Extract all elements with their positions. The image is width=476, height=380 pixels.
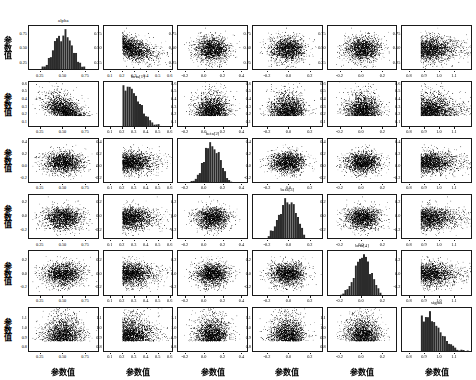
x-tick-mark	[424, 353, 425, 355]
y-axis-label-row-4: 参数值	[1, 194, 12, 239]
y-tick-label: -0.2	[20, 284, 27, 290]
y-ticks-sigma: 0.80.91.01.1	[14, 307, 28, 352]
scatter-plot-area	[104, 195, 174, 239]
x-tick-label: 0.4	[239, 185, 244, 191]
x-tick-mark	[361, 127, 362, 129]
x-tick-label: 0.1	[107, 129, 112, 135]
x-tick-label: 0.0	[358, 129, 363, 135]
x-tick-label: 0.4	[143, 185, 148, 191]
x-tick-label: 0.75	[81, 354, 89, 360]
panel-title-beta1: beta[1]	[103, 73, 174, 80]
x-tick-label: 0.3	[131, 129, 136, 135]
x-tick-label: 0.4	[239, 242, 244, 248]
x-tick-label: 0.6	[167, 354, 172, 360]
x-tick-mark	[204, 240, 205, 242]
panel-title-beta2: beta[2]	[177, 130, 248, 137]
x-tick-mark	[110, 71, 111, 73]
scatter-panel-sigma-vs-beta1	[401, 81, 472, 126]
x-tick-label: -0.2	[181, 242, 188, 248]
scatter-panel-beta2-vs-beta4	[177, 250, 248, 295]
x-tick-label: 1.0	[436, 354, 441, 360]
x-ticks-beta1-r5: 0.10.20.30.40.50.6	[103, 353, 174, 361]
x-tick-mark	[40, 296, 41, 298]
x-tick-label: -0.2	[264, 354, 271, 360]
x-tick-label: 0.0	[358, 298, 363, 304]
x-tick-mark	[146, 240, 147, 242]
y-tick-label: 0.0	[22, 213, 27, 219]
x-tick-mark	[204, 71, 205, 73]
x-tick-label: 0.25	[36, 73, 44, 79]
panel-title-sigma: sigma	[401, 299, 472, 306]
x-tick-mark	[267, 184, 268, 186]
scatter-plot-area	[178, 308, 248, 352]
scatter-plot-area	[104, 308, 174, 352]
x-tick-label: 0.50	[59, 73, 67, 79]
x-tick-label: 1.1	[451, 73, 456, 79]
scatter-panel-beta2-vs-beta3	[177, 194, 248, 239]
x-tick-mark	[382, 71, 383, 73]
x-tick-mark	[158, 296, 159, 298]
x-tick-mark	[122, 240, 123, 242]
scatter-plot-area	[253, 82, 323, 126]
x-tick-label: 1.0	[436, 242, 441, 248]
y-ticks-alpha: 0.250.500.75	[14, 25, 28, 70]
y-axis-label-row-6: 参数值	[1, 307, 12, 352]
x-tick-label: 0.3	[131, 354, 136, 360]
scatter-panel-alpha-vs-sigma	[28, 307, 99, 352]
x-tick-label: 0.2	[307, 185, 312, 191]
x-tick-label: 0.2	[119, 242, 124, 248]
x-tick-label: -0.2	[264, 73, 271, 79]
x-tick-mark	[241, 184, 242, 186]
scatter-plot-area	[328, 195, 398, 239]
scatter-plot-area	[178, 195, 248, 239]
scatter-panel-alpha-vs-beta1	[28, 81, 99, 126]
x-tick-mark	[62, 184, 63, 186]
x-tick-mark	[122, 184, 123, 186]
x-tick-label: 0.1	[107, 73, 112, 79]
x-tick-mark	[110, 127, 111, 129]
x-tick-label: -0.2	[264, 298, 271, 304]
x-tick-mark	[122, 296, 123, 298]
x-tick-label: 0.0	[286, 242, 291, 248]
scatter-panel-beta1-vs-beta3	[103, 194, 174, 239]
x-tick-label: 0.4	[239, 354, 244, 360]
x-tick-mark	[85, 71, 86, 73]
x-tick-label: 0.8	[406, 354, 411, 360]
x-tick-label: 0.5	[155, 185, 160, 191]
x-tick-mark	[361, 296, 362, 298]
x-tick-mark	[288, 296, 289, 298]
x-tick-label: -0.2	[181, 73, 188, 79]
scatter-panel-beta2-vs-alpha	[177, 25, 248, 70]
x-tick-mark	[288, 353, 289, 355]
scatter-panel-beta3-vs-beta1	[252, 81, 323, 126]
y-ticks-beta2: -0.20.00.20.4	[14, 138, 28, 183]
x-tick-mark	[241, 127, 242, 129]
y-ticks-beta1: 0.10.20.30.40.50.6	[14, 81, 28, 126]
y-axis-label-row-1: 参数值	[1, 25, 12, 70]
x-tick-mark	[204, 127, 205, 129]
x-tick-label: 0.6	[167, 73, 172, 79]
x-ticks-sigma-r0: 0.80.91.01.1	[401, 71, 472, 79]
x-tick-label: 0.25	[36, 298, 44, 304]
x-tick-mark	[310, 184, 311, 186]
x-tick-mark	[310, 240, 311, 242]
x-tick-label: -0.2	[181, 185, 188, 191]
x-tick-label: 0.8	[406, 298, 411, 304]
x-tick-label: 1.1	[451, 354, 456, 360]
x-ticks-sigma-r3: 0.80.91.01.1	[401, 240, 472, 248]
x-tick-mark	[241, 296, 242, 298]
x-tick-label: 0.75	[81, 73, 89, 79]
x-tick-mark	[62, 353, 63, 355]
y-tick-label: 0.75	[19, 31, 27, 37]
histogram-plot-area	[104, 82, 174, 126]
y-tick-label: 0.9	[22, 335, 27, 341]
x-tick-mark	[204, 353, 205, 355]
x-tick-mark	[361, 184, 362, 186]
x-ticks-beta1-r0: 0.10.20.30.40.50.6	[103, 71, 174, 79]
x-tick-label: 0.0	[358, 242, 363, 248]
x-ticks-beta3-r4: -0.20.00.2	[252, 296, 323, 304]
x-tick-mark	[85, 240, 86, 242]
x-tick-mark	[267, 127, 268, 129]
x-tick-mark	[134, 184, 135, 186]
x-tick-label: 0.0	[286, 73, 291, 79]
